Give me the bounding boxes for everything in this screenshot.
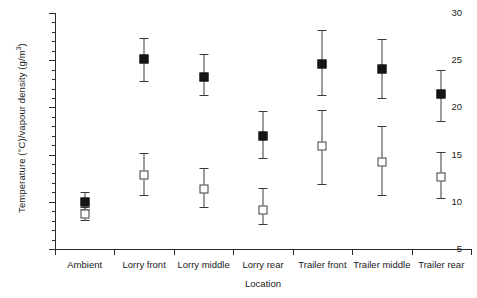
x-tick	[352, 249, 353, 255]
y-tick-major	[49, 202, 55, 203]
y-tick-label: 5	[422, 244, 462, 254]
data-point-temperature	[80, 197, 89, 206]
error-bar-cap	[437, 152, 446, 153]
y-axis-line	[55, 13, 56, 249]
data-point-temperature	[377, 64, 386, 73]
data-point-vapour-density	[199, 184, 208, 193]
x-axis-line	[55, 249, 471, 250]
y-tick-minor	[52, 51, 55, 52]
data-point-temperature	[318, 59, 327, 68]
error-bar-cap	[140, 195, 149, 196]
y-tick-minor	[52, 126, 55, 127]
error-bar-cap	[377, 126, 386, 127]
y-tick-major	[49, 60, 55, 61]
error-bar-cap	[377, 195, 386, 196]
error-bar-cap	[259, 158, 268, 159]
y-tick-minor	[52, 98, 55, 99]
error-bar-cap	[140, 153, 149, 154]
y-tick-minor	[52, 145, 55, 146]
error-bar-cap	[377, 98, 386, 99]
y-tick-minor	[52, 70, 55, 71]
y-tick-label: 30	[422, 8, 462, 18]
y-tick-major	[49, 155, 55, 156]
y-tick-minor	[52, 41, 55, 42]
error-bar-cap	[80, 192, 89, 193]
x-tick	[471, 249, 472, 255]
x-tick	[174, 249, 175, 255]
y-tick-minor	[52, 183, 55, 184]
y-tick-minor	[52, 164, 55, 165]
y-tick-minor	[52, 136, 55, 137]
error-bar-cap	[199, 95, 208, 96]
x-tick	[114, 249, 115, 255]
y-tick-minor	[52, 173, 55, 174]
data-point-vapour-density	[318, 142, 327, 151]
y-tick-label: 25	[422, 55, 462, 65]
error-bar-cap	[80, 207, 89, 208]
y-tick-minor	[52, 211, 55, 212]
y-tick-minor	[52, 32, 55, 33]
x-tick	[55, 249, 56, 255]
error-bar-cap	[318, 30, 327, 31]
y-tick-minor	[52, 240, 55, 241]
error-bar-cap	[259, 188, 268, 189]
y-axis-title: Temperature (°C)/vapour density (g/m3)	[8, 8, 30, 248]
y-tick-minor	[52, 22, 55, 23]
error-bar-cap	[318, 184, 327, 185]
data-point-vapour-density	[377, 158, 386, 167]
y-tick-major	[49, 107, 55, 108]
data-point-vapour-density	[259, 206, 268, 215]
y-tick-minor	[52, 221, 55, 222]
error-bar-cap	[199, 54, 208, 55]
error-bar-cap	[80, 220, 89, 221]
plot-area: 51015202530 AmbientLorry frontLorry midd…	[55, 13, 471, 249]
error-bar-cap	[140, 81, 149, 82]
y-tick-minor	[52, 230, 55, 231]
error-bar-cap	[437, 70, 446, 71]
error-bar-cap	[437, 121, 446, 122]
y-tick-minor	[52, 192, 55, 193]
error-bar-cap	[437, 198, 446, 199]
y-tick-minor	[52, 89, 55, 90]
data-point-vapour-density	[437, 173, 446, 182]
data-point-temperature	[259, 131, 268, 140]
x-tick	[233, 249, 234, 255]
error-bar-cap	[318, 110, 327, 111]
error-bar-cap	[377, 39, 386, 40]
x-axis-title: Location	[55, 278, 471, 289]
y-tick-major	[49, 13, 55, 14]
data-point-vapour-density	[80, 210, 89, 219]
error-bar-cap	[199, 207, 208, 208]
y-tick-label: 20	[422, 103, 462, 113]
error-bar-cap	[140, 38, 149, 39]
data-point-temperature	[140, 55, 149, 64]
data-point-vapour-density	[140, 171, 149, 180]
x-tick-label: Trailer rear	[396, 260, 477, 270]
x-tick	[293, 249, 294, 255]
x-tick	[412, 249, 413, 255]
scatter-chart: Temperature (°C)/vapour density (g/m3) 5…	[0, 0, 477, 298]
y-tick-minor	[52, 117, 55, 118]
error-bar-cap	[259, 111, 268, 112]
error-bar-cap	[199, 168, 208, 169]
error-bar-cap	[259, 224, 268, 225]
y-tick-minor	[52, 79, 55, 80]
data-point-temperature	[437, 90, 446, 99]
data-point-temperature	[199, 73, 208, 82]
error-bar-cap	[318, 95, 327, 96]
